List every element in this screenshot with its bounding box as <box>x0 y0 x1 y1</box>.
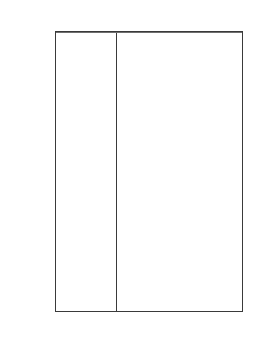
epoch-column <box>56 32 117 311</box>
scan-artifact-text <box>6 0 186 10</box>
geologic-time-scale-figure <box>0 0 254 342</box>
period-boundary-line-505 <box>56 32 242 33</box>
stratigraphic-column-plot <box>55 31 243 312</box>
period-column <box>117 32 242 311</box>
